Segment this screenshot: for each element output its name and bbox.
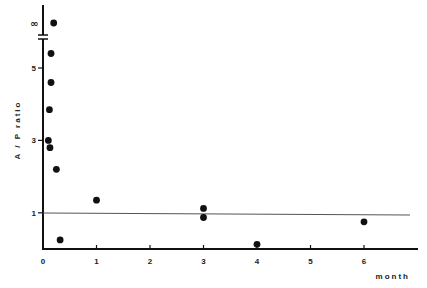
x-tick-label: 5 — [308, 257, 313, 266]
data-point — [48, 79, 55, 86]
reference-line — [43, 213, 410, 215]
data-point — [57, 237, 64, 244]
y-ticks: 135 — [32, 64, 43, 218]
data-point — [48, 50, 55, 57]
data-point — [45, 137, 52, 144]
x-tick-label: 4 — [255, 257, 260, 266]
y-tick-label: 3 — [32, 136, 37, 145]
x-tick-label: 1 — [94, 257, 99, 266]
data-point — [53, 166, 60, 173]
x-tick-label: 3 — [201, 257, 206, 266]
data-point — [254, 241, 261, 248]
data-point — [361, 218, 368, 225]
data-point — [47, 144, 54, 151]
x-axis-title: month — [376, 272, 410, 281]
x-tick-label: 2 — [148, 257, 153, 266]
y-tick-label: 1 — [32, 209, 37, 218]
infinity-label: ∞ — [30, 18, 38, 29]
y-axis-title: A / P ratio — [13, 101, 22, 160]
data-point — [93, 197, 100, 204]
scatter-chart: 135 0123456 ∞ A / P ratio month — [0, 0, 427, 288]
x-tick-label: 0 — [41, 257, 46, 266]
y-tick-label: 5 — [32, 64, 37, 73]
data-point — [50, 20, 57, 27]
data-point — [200, 205, 207, 212]
data-point — [200, 214, 207, 221]
x-tick-label: 6 — [362, 257, 367, 266]
data-point — [46, 106, 53, 113]
